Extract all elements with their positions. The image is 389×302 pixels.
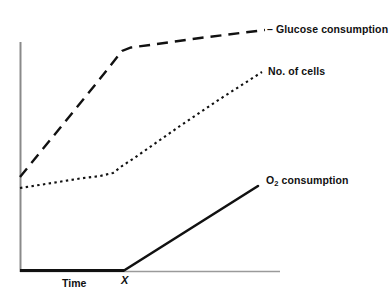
- glucose-label-text: Glucose consumption: [276, 23, 388, 35]
- series-glucose-consumption-line: [20, 30, 265, 177]
- chart-container: – Glucose consumption No. of cells O2 co…: [0, 0, 389, 302]
- x-axis-marker-label: X: [121, 275, 128, 286]
- o2-label-subscript: 2: [274, 179, 278, 188]
- glucose-label-dash: –: [267, 23, 273, 35]
- series-label-o2-consumption: O2 consumption: [266, 175, 349, 186]
- series-no-of-cells-line: [20, 72, 262, 188]
- x-axis-title: Time: [62, 278, 86, 289]
- series-label-glucose-consumption: – Glucose consumption: [267, 24, 388, 35]
- series-o2-rising-segment: [124, 186, 258, 271]
- o2-label-suffix: consumption: [279, 174, 349, 186]
- series-label-no-of-cells: No. of cells: [268, 66, 325, 77]
- cells-label-text: No. of cells: [268, 65, 325, 77]
- chart-plot-area: [0, 0, 389, 302]
